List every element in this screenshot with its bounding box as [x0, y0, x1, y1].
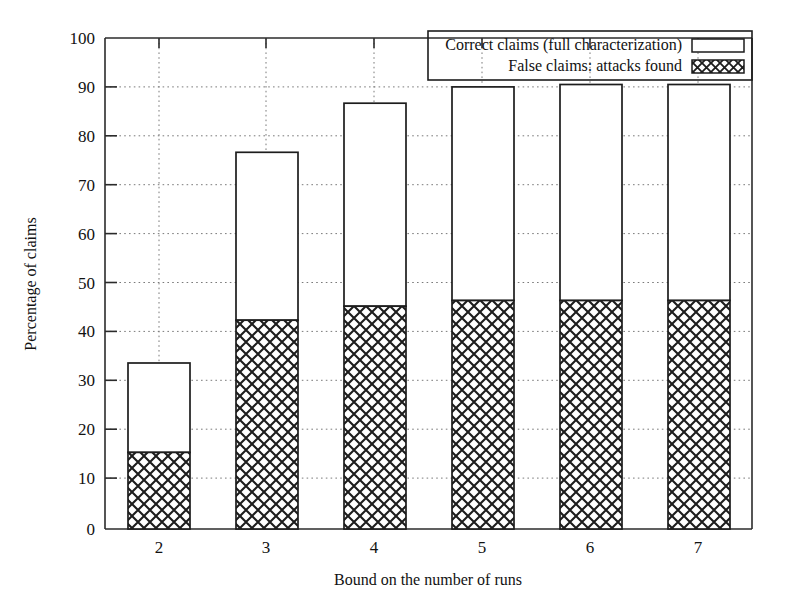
bar-segment-false: [560, 301, 622, 530]
bar-group-7: [668, 85, 730, 530]
bar-segment-correct: [560, 85, 622, 301]
crosshatch-box-swatch-icon: [692, 60, 744, 73]
y-tick-label: 0: [87, 520, 96, 539]
y-tick-label: 70: [78, 176, 95, 195]
legend-label-false: False claims: attacks found: [508, 57, 682, 74]
bar-segment-false: [344, 306, 406, 529]
bar-group-4: [344, 103, 406, 529]
y-tick-label: 90: [78, 78, 95, 97]
x-tick-label: 2: [155, 538, 164, 557]
bar-group-5: [452, 87, 514, 529]
y-axis-title: Percentage of claims: [22, 217, 40, 350]
y-tick-label: 10: [78, 469, 95, 488]
x-tick-label: 6: [586, 538, 595, 557]
bar-segment-false: [128, 452, 190, 529]
y-tick-label: 30: [78, 371, 95, 390]
bar-segment-correct: [344, 103, 406, 306]
x-tick-label: 7: [694, 538, 703, 557]
bar-segment-false: [668, 301, 730, 530]
chart-container: 100 90 80 70 60 50 40 30 20 10 0: [0, 0, 793, 604]
empty-box-swatch-icon: [692, 39, 744, 52]
bar-segment-false: [236, 320, 298, 529]
bar-segment-correct: [236, 152, 298, 320]
bar-segment-correct: [128, 363, 190, 452]
bar-segment-correct: [452, 87, 514, 301]
bar-group-2: [128, 363, 190, 529]
bar-group-6: [560, 85, 622, 530]
y-tick-label: 50: [78, 274, 95, 293]
y-tick-label: 80: [78, 127, 95, 146]
bar-chart-svg: 100 90 80 70 60 50 40 30 20 10 0: [0, 0, 793, 604]
y-tick-label: 60: [78, 225, 95, 244]
x-axis-title: Bound on the number of runs: [334, 571, 522, 588]
x-tick-label: 5: [478, 538, 487, 557]
bar-group-3: [236, 152, 298, 529]
x-tick-label: 4: [370, 538, 379, 557]
bar-segment-correct: [668, 85, 730, 301]
y-tick-label: 100: [70, 29, 96, 48]
x-tick-label: 3: [262, 538, 271, 557]
y-tick-label: 40: [78, 322, 95, 341]
y-tick-label: 20: [78, 420, 95, 439]
legend-label-correct: Correct claims (full characterization): [445, 36, 682, 54]
bar-segment-false: [452, 301, 514, 530]
